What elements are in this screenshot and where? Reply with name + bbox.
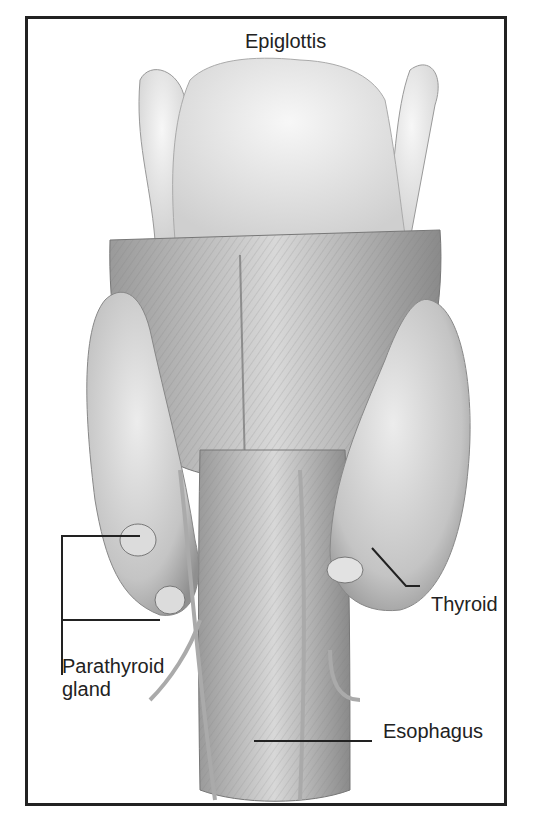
- parathyroid-lower: [155, 586, 185, 614]
- label-parathyroid-line1: Parathyroid: [62, 655, 164, 678]
- epiglottis: [173, 58, 405, 240]
- label-esophagus: Esophagus: [383, 720, 483, 743]
- label-epiglottis: Epiglottis: [245, 30, 326, 53]
- parathyroid-upper: [120, 524, 156, 556]
- anatomy-illustration: [0, 0, 539, 836]
- label-parathyroid: Parathyroid gland: [62, 655, 164, 701]
- label-parathyroid-line2: gland: [62, 678, 164, 701]
- label-thyroid: Thyroid: [431, 593, 498, 616]
